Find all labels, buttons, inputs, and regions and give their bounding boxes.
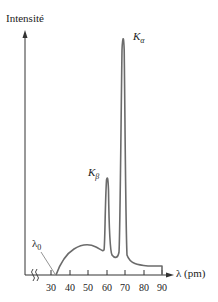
lambda-symbol: λ [176,267,181,279]
spectrum-curve [56,39,162,275]
x-tick-label: 50 [83,282,93,293]
lambda0-subscript: 0 [37,243,41,252]
lambda0-leader-line [41,252,55,274]
x-tick-label: 70 [120,282,130,293]
x-tick-label: 30 [46,282,56,293]
x-axis-unit: (pm) [184,267,205,279]
k-alpha-label: Kα [133,30,145,45]
y-axis-arrow-icon [23,30,28,38]
x-ticks [51,270,162,275]
x-tick-label: 40 [65,282,75,293]
k-beta-subscript: β [95,172,99,181]
lambda0-label: λ0 [32,237,41,252]
x-tick-label: 60 [102,282,112,293]
x-axis-arrow-icon [166,273,174,278]
x-tick-label: 90 [157,282,167,293]
k-alpha-subscript: α [140,36,144,45]
x-tick-label: 80 [139,282,149,293]
k-beta-label: Kβ [88,166,99,181]
spectrum-chart [0,0,218,302]
x-axis-label: λ (pm) [176,267,205,279]
